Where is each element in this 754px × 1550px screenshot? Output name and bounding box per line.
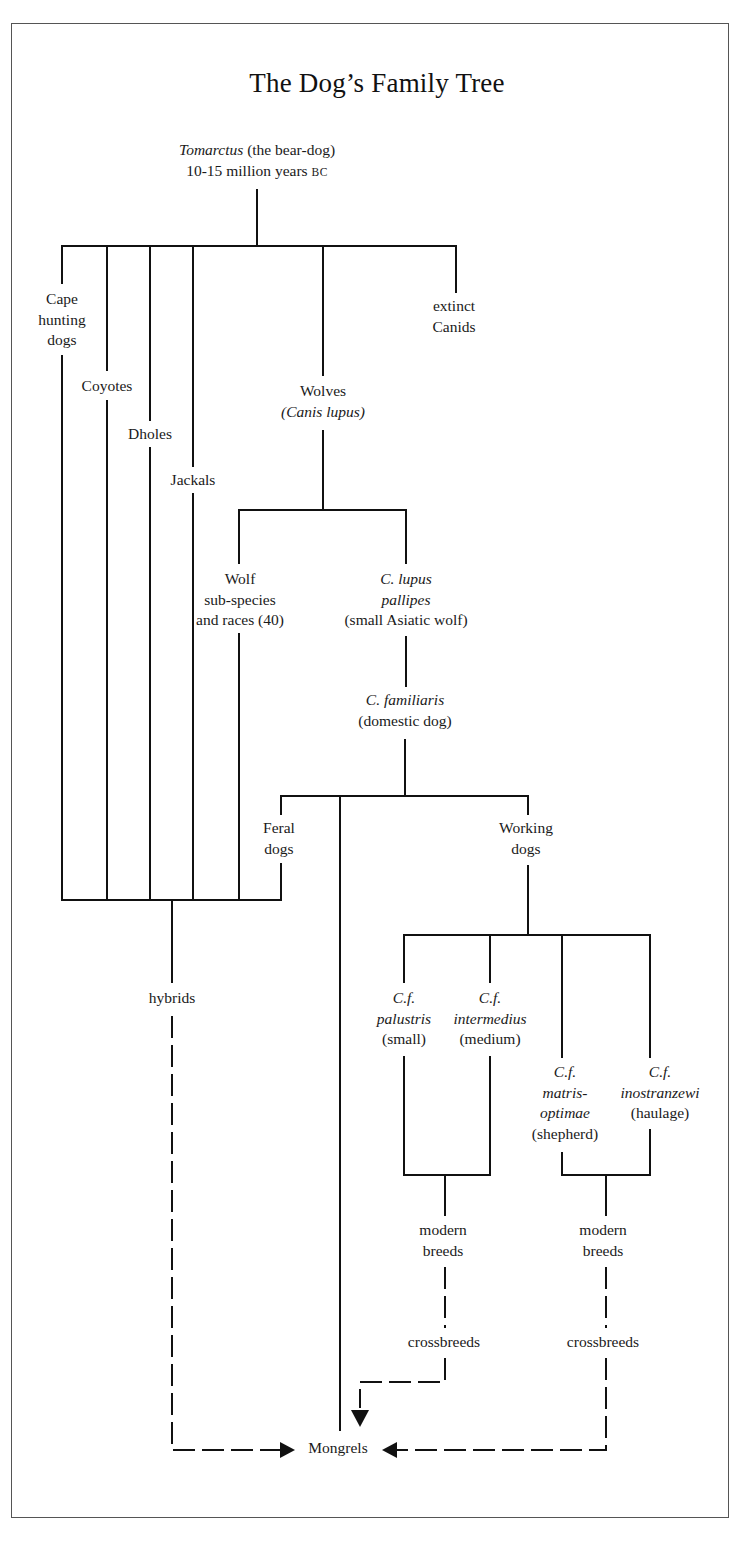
node-tomarctus: Tomarctus (the bear-dog) 10-15 million y… [179,140,335,182]
node-cape-hunting-dogs: Cape hunting dogs [38,289,85,351]
node-c-lupus-pallipes: C. lupus pallipes (small Asiatic wolf) [344,569,467,631]
dashed-hybrids-to-mongrels [172,1016,288,1450]
node-extinct-canids: extinct Canids [432,296,475,337]
node-coyotes: Coyotes [82,376,133,397]
arrow-left-icon [382,1442,397,1458]
node-working-dogs: Working dogs [499,818,553,859]
arrow-right-icon [280,1442,295,1458]
node-cf-matris-optimae: C.f. matris- optimae (shepherd) [532,1062,598,1144]
node-crossbreeds-right: crossbreeds [567,1332,639,1353]
node-mongrels: Mongrels [308,1438,367,1459]
arrow-down-icon [351,1410,369,1427]
node-hybrids: hybrids [149,988,196,1009]
root-name-rest: (the bear-dog) [243,141,335,158]
node-wolves: Wolves (Canis lupus) [281,381,365,422]
dashed-crossbreeds-right-to-mongrels [390,1358,606,1450]
tree-connectors [0,0,754,1550]
node-cf-palustris: C.f. palustris (small) [377,988,431,1050]
root-age: 10-15 million years [186,162,311,179]
node-modern-breeds-right: modern breeds [579,1220,626,1261]
dashed-crossbreeds-left-to-mongrels [360,1358,445,1408]
node-jackals: Jackals [171,470,216,491]
node-c-familiaris: C. familiaris (domestic dog) [358,690,451,731]
node-feral-dogs: Feral dogs [263,818,295,859]
node-dholes: Dholes [128,424,172,445]
node-crossbreeds-left: crossbreeds [408,1332,480,1353]
node-modern-breeds-left: modern breeds [419,1220,466,1261]
node-cf-intermedius: C.f. intermedius (medium) [453,988,526,1050]
node-wolf-subspecies: Wolf sub-species and races (40) [196,569,284,631]
root-name-italic: Tomarctus [179,141,243,158]
node-cf-inostranzewi: C.f. inostranzewi (haulage) [620,1062,699,1124]
root-age-era: BC [311,166,327,178]
diagram-title: The Dog’s Family Tree [0,68,754,99]
